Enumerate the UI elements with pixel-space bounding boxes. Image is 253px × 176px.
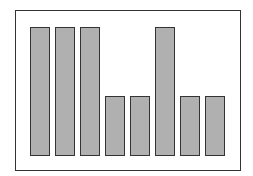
bar-6 (155, 27, 175, 156)
bar-7 (180, 96, 200, 156)
bar-2 (55, 27, 75, 156)
bar-5 (130, 96, 150, 156)
bar-3 (80, 27, 100, 156)
bar-4 (105, 96, 125, 156)
bar-1 (30, 27, 50, 156)
bar-8 (205, 96, 225, 156)
